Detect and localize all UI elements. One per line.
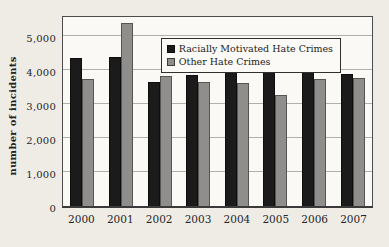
bar <box>225 68 237 206</box>
bar <box>275 95 287 206</box>
bar <box>160 76 172 206</box>
y-axis: 01,0002,0003,0004,0005,000 <box>0 16 56 208</box>
hate-crimes-bar-chart: number of incidents 01,0002,0003,0004,00… <box>0 0 389 247</box>
x-tick-label: 2005 <box>256 213 295 225</box>
x-tick-label: 2000 <box>62 213 101 225</box>
y-tick-label: 4,000 <box>26 66 56 77</box>
y-tick-label: 0 <box>49 203 56 214</box>
bar <box>148 82 160 206</box>
plot-area: Racially Motivated Hate CrimesOther Hate… <box>62 16 373 208</box>
bar <box>353 78 365 206</box>
x-tick-label: 2007 <box>334 213 373 225</box>
bar <box>198 82 210 206</box>
bar <box>186 75 198 206</box>
bar <box>82 79 94 206</box>
y-tick-label: 3,000 <box>26 100 56 111</box>
bar-group-2001 <box>102 17 141 206</box>
y-tick-label: 2,000 <box>26 134 56 145</box>
bar <box>314 79 326 206</box>
legend-swatch-icon <box>167 45 175 53</box>
y-tick-label: 5,000 <box>26 32 56 43</box>
x-tick-label: 2003 <box>179 213 218 225</box>
legend-item: Other Hate Crimes <box>167 55 333 68</box>
legend-label: Racially Motivated Hate Crimes <box>179 42 333 55</box>
bar <box>263 72 275 206</box>
bar <box>70 58 82 206</box>
bar <box>341 74 353 206</box>
legend: Racially Motivated Hate CrimesOther Hate… <box>161 38 341 73</box>
x-tick-label: 2006 <box>295 213 334 225</box>
bar <box>302 70 314 206</box>
bar <box>121 23 133 206</box>
x-axis: 20002001200220032004200520062007 <box>62 213 373 225</box>
x-tick-label: 2002 <box>140 213 179 225</box>
bar-group-2000 <box>63 17 102 206</box>
legend-label: Other Hate Crimes <box>179 55 271 68</box>
bar <box>109 57 121 206</box>
bar <box>237 83 249 206</box>
legend-swatch-icon <box>167 58 175 66</box>
y-tick-label: 1,000 <box>26 168 56 179</box>
legend-item: Racially Motivated Hate Crimes <box>167 42 333 55</box>
x-tick-label: 2001 <box>101 213 140 225</box>
x-tick-label: 2004 <box>218 213 257 225</box>
